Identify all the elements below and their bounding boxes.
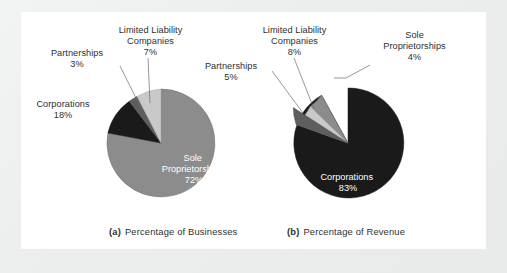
caption-businesses-text: Percentage of Businesses <box>125 226 238 237</box>
label-llc-a-line3: 7% <box>98 47 203 58</box>
caption-businesses-marker: (a) <box>109 226 121 237</box>
label-sole-prop-b-line1: Sole <box>362 30 467 41</box>
label-llc-b-line3: 8% <box>242 47 347 58</box>
label-partnerships-b-line2: 5% <box>186 72 276 83</box>
caption-revenue-text: Percentage of Revenue <box>303 226 405 237</box>
label-llc-a-line1: Limited Liability <box>98 25 203 36</box>
label-corporations-a-line2: 18% <box>18 110 108 121</box>
figure-plate: Sole Proprietorships 72% <box>22 13 485 248</box>
label-sole-proprietorships-b: Sole Proprietorships 4% <box>362 30 467 64</box>
label-sole-prop-b-line2: Proprietorships <box>362 41 467 52</box>
leader-line-partnerships-b <box>272 71 303 113</box>
figure-canvas: Sole Proprietorships 72% <box>0 0 507 273</box>
caption-revenue: (b)Percentage of Revenue <box>287 226 405 237</box>
label-llc-a-line2: Companies <box>98 36 203 47</box>
caption-businesses: (a)Percentage of Businesses <box>109 226 237 237</box>
caption-revenue-marker: (b) <box>287 226 299 237</box>
label-llc-a: Limited Liability Companies 7% <box>98 25 203 59</box>
label-partnerships-b: Partnerships 5% <box>186 61 276 83</box>
label-partnerships-a-line2: 3% <box>32 59 122 70</box>
label-corporations-a-line1: Corporations <box>18 99 108 110</box>
label-partnerships-b-line1: Partnerships <box>186 61 276 72</box>
label-llc-b: Limited Liability Companies 8% <box>242 25 347 59</box>
leader-line-sole-proprietorships-b <box>334 65 370 78</box>
label-llc-b-line2: Companies <box>242 36 347 47</box>
label-corporations-a: Corporations 18% <box>18 99 108 121</box>
label-llc-b-line1: Limited Liability <box>242 25 347 36</box>
label-sole-prop-b-line3: 4% <box>362 52 467 63</box>
leader-line-llc-b <box>294 58 314 109</box>
pie-chart-revenue: Corporations 83% <box>272 58 404 198</box>
